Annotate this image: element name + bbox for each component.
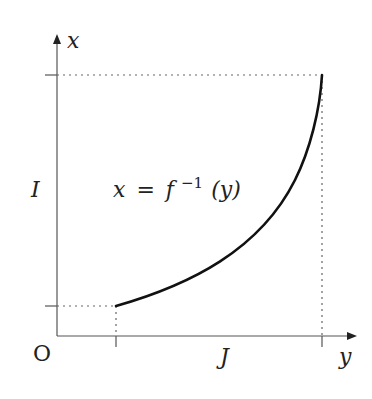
vertical-axis-label: x (67, 28, 80, 53)
horizontal-axis-label: y (338, 344, 352, 369)
curve-label: x = f −1 (y) (113, 168, 241, 202)
interval-i-label: I (30, 177, 41, 202)
interval-j-label: J (216, 344, 230, 369)
inverse-function-diagram: x y O I J x = f −1 (y) (0, 0, 372, 399)
origin-label: O (33, 341, 51, 366)
